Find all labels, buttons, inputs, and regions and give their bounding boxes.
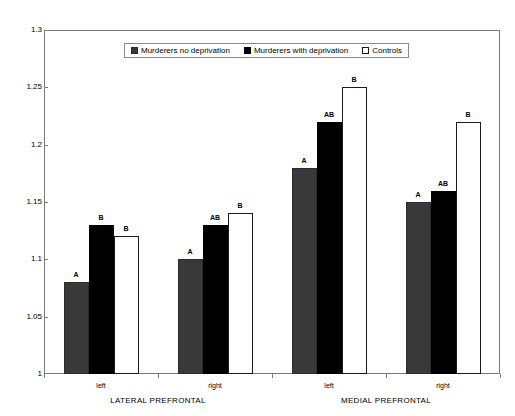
x-axis-tick-mark (386, 374, 387, 378)
y-axis-tick-label: 1.1 (6, 255, 42, 263)
y-axis-tick-mark (44, 317, 48, 318)
x-axis-tick-mark (158, 374, 159, 378)
legend-entry: Murderers no deprivation (131, 47, 230, 55)
x-axis-sub-label: left (324, 382, 333, 389)
x-axis-sub-label: left (96, 382, 105, 389)
x-axis-tick-mark (272, 374, 273, 378)
y-axis-tick-label: 1.2 (6, 141, 42, 149)
legend-label: Controls (372, 47, 402, 55)
x-axis-sub-label: right (436, 382, 450, 389)
y-axis-tick-label: 1.25 (6, 83, 42, 91)
bar-chart: 1.31.251.21.151.11.051 ABBAABBAABBAABB M… (0, 0, 515, 416)
x-axis-group-label: LATERAL PREFRONTAL (110, 396, 206, 405)
legend-entry: Murderers with deprivation (244, 47, 348, 55)
legend-swatch-icon (131, 47, 138, 54)
x-axis-group-label: MEDIAL PREFRONTAL (341, 396, 431, 405)
x-axis-tick-mark (500, 374, 501, 378)
y-axis-tick-mark (44, 259, 48, 260)
y-axis-tick-label: 1.15 (6, 198, 42, 206)
y-axis-tick-mark (44, 202, 48, 203)
legend-label: Murderers no deprivation (141, 47, 230, 55)
chart-legend: Murderers no deprivationMurderers with d… (124, 43, 409, 58)
legend-swatch-icon (244, 47, 251, 54)
x-axis-sub-label: right (208, 382, 222, 389)
y-axis-tick-mark (44, 87, 48, 88)
legend-entry: Controls (362, 47, 402, 55)
plot-area (44, 30, 500, 374)
y-axis-tick-mark (44, 145, 48, 146)
y-axis-tick-label: 1.05 (6, 313, 42, 321)
legend-label: Murderers with deprivation (254, 47, 348, 55)
legend-swatch-icon (362, 47, 369, 54)
x-axis-tick-mark (44, 374, 45, 378)
y-axis: 1.31.251.21.151.11.051 (0, 30, 42, 374)
y-axis-tick-label: 1.3 (6, 26, 42, 34)
x-axis: leftrightleftrightLATERAL PREFRONTALMEDI… (44, 374, 500, 416)
y-axis-tick-label: 1 (6, 370, 42, 378)
